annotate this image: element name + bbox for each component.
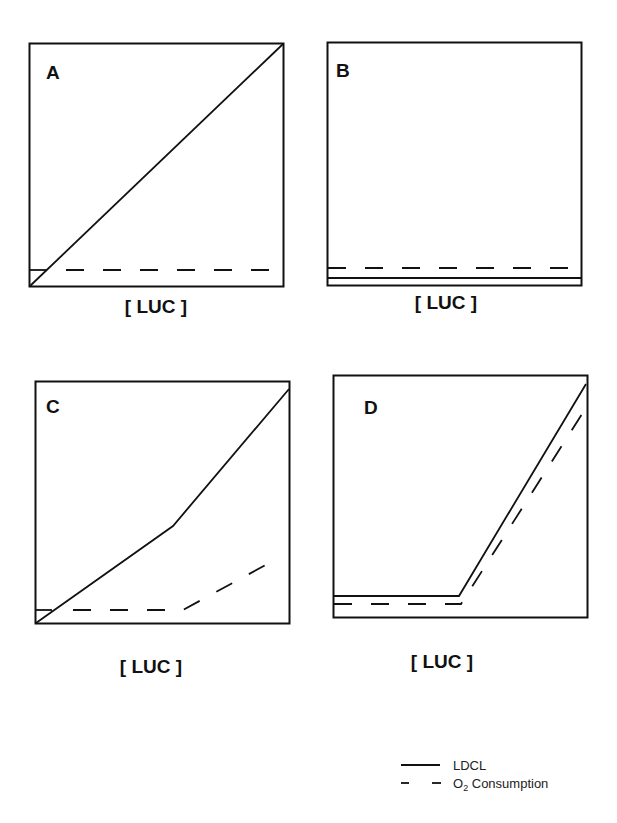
panel-b-frame bbox=[328, 43, 582, 286]
panel-c-xlabel: [ LUC ] bbox=[120, 656, 182, 677]
panel-a-ldcl-line bbox=[30, 44, 283, 286]
panel-b: B [ LUC ] bbox=[328, 43, 582, 314]
panel-a: A [ LUC ] bbox=[30, 44, 284, 318]
panel-c-o2-line bbox=[73, 562, 271, 610]
panel-c-letter: C bbox=[46, 396, 60, 417]
panel-d-letter: D bbox=[364, 397, 378, 418]
panel-b-xlabel: [ LUC ] bbox=[415, 292, 477, 313]
panel-a-letter: A bbox=[46, 62, 60, 83]
panel-d-xlabel: [ LUC ] bbox=[411, 651, 473, 672]
panel-c: C [ LUC ] bbox=[36, 382, 290, 678]
panel-c-ldcl-line bbox=[36, 389, 289, 623]
legend-ldcl-label: LDCL bbox=[453, 758, 486, 773]
legend: LDCL O2 Consumption bbox=[401, 758, 548, 793]
panel-c-frame bbox=[36, 382, 290, 624]
figure-canvas: A [ LUC ] B [ LUC ] C [ LUC ] D [ LUC bbox=[0, 0, 617, 823]
panel-b-letter: B bbox=[336, 60, 350, 81]
legend-o2-label: O2 Consumption bbox=[453, 776, 548, 793]
panel-a-xlabel: [ LUC ] bbox=[125, 296, 187, 317]
panel-d: D [ LUC ] bbox=[334, 376, 588, 673]
panel-d-o2-line bbox=[334, 411, 584, 604]
